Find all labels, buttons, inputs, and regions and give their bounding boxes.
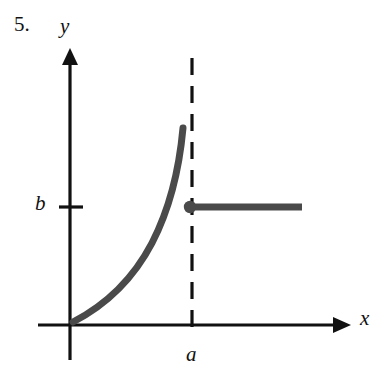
x-axis-arrowhead-icon [333, 317, 351, 333]
figure-container: 5. y x b a [0, 0, 388, 378]
y-axis [62, 48, 78, 360]
x-axis-label: x [360, 308, 369, 329]
graph-canvas [0, 0, 388, 378]
y-axis-label: y [60, 16, 69, 37]
y-axis-arrowhead-icon [62, 48, 78, 65]
filled-point-marker [184, 201, 196, 213]
problem-number-label: 5. [14, 14, 30, 35]
curve-increasing-branch [73, 128, 183, 322]
x-axis-tick-label-a: a [186, 344, 197, 365]
y-axis-tick-label-b: b [35, 193, 46, 214]
x-axis [38, 317, 351, 333]
